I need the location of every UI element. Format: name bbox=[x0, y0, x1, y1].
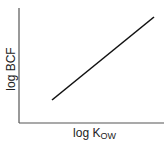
chart-plot bbox=[0, 0, 167, 144]
x-axis-label: log KOW bbox=[0, 126, 167, 141]
y-axis-label: log BCF bbox=[4, 24, 18, 114]
regression-line bbox=[52, 17, 154, 100]
